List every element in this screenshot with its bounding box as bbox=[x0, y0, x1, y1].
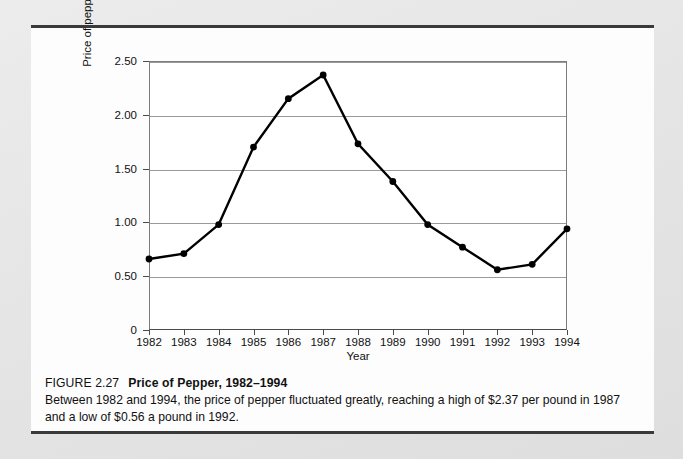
x-tick-label: 1994 bbox=[554, 337, 580, 349]
x-tick-mark bbox=[288, 330, 289, 335]
x-tick-label: 1991 bbox=[450, 337, 476, 349]
y-tick-label: 1.00 bbox=[31, 217, 137, 229]
x-tick-label: 1992 bbox=[485, 337, 511, 349]
data-point bbox=[564, 225, 571, 232]
data-point bbox=[250, 144, 257, 151]
x-tick-label: 1985 bbox=[241, 337, 267, 349]
y-tick-label: 0 bbox=[31, 325, 137, 337]
x-tick-mark bbox=[219, 330, 220, 335]
data-point bbox=[424, 221, 431, 228]
figure-number: FIGURE 2.27 bbox=[45, 376, 119, 390]
y-tick-label: 0.50 bbox=[31, 271, 137, 283]
series-markers bbox=[146, 72, 571, 274]
x-tick-mark bbox=[532, 330, 533, 335]
page-background: Price of pepper (dollars per pound) 00.5… bbox=[0, 0, 683, 459]
x-tick-label: 1982 bbox=[136, 337, 162, 349]
x-tick-mark bbox=[254, 330, 255, 335]
x-tick-label: 1984 bbox=[206, 337, 232, 349]
line-series bbox=[149, 61, 567, 330]
y-axis-title: Price of pepper (dollars per pound) bbox=[81, 0, 93, 103]
x-tick-mark bbox=[149, 330, 150, 335]
series-line bbox=[149, 75, 567, 270]
caption-body: Between 1982 and 1994, the price of pepp… bbox=[45, 392, 625, 426]
chart-region: Price of pepper (dollars per pound) 00.5… bbox=[31, 28, 654, 373]
x-tick-label: 1990 bbox=[415, 337, 441, 349]
x-tick-label: 1988 bbox=[345, 337, 371, 349]
x-tick-label: 1983 bbox=[171, 337, 197, 349]
y-axis-title-container: Price of pepper (dollars per pound) bbox=[87, 61, 107, 330]
x-axis-title: Year bbox=[149, 350, 567, 362]
data-point bbox=[529, 261, 536, 268]
x-tick-mark bbox=[358, 330, 359, 335]
x-tick-mark bbox=[184, 330, 185, 335]
caption-title: FIGURE 2.27Price of Pepper, 1982–1994 bbox=[45, 376, 640, 390]
x-tick-mark bbox=[323, 330, 324, 335]
x-tick-label: 1993 bbox=[519, 337, 545, 349]
y-tick-label: 1.50 bbox=[31, 164, 137, 176]
x-tick-mark bbox=[567, 330, 568, 335]
figure-title: Price of Pepper, 1982–1994 bbox=[128, 376, 287, 390]
y-tick-label: 2.50 bbox=[31, 56, 137, 68]
data-point bbox=[146, 256, 153, 263]
data-point bbox=[389, 178, 396, 185]
figure-card: Price of pepper (dollars per pound) 00.5… bbox=[31, 25, 654, 434]
figure-caption: FIGURE 2.27Price of Pepper, 1982–1994 Be… bbox=[31, 376, 654, 426]
data-point bbox=[215, 221, 222, 228]
data-point bbox=[320, 72, 327, 79]
x-tick-label: 1986 bbox=[276, 337, 302, 349]
x-tick-mark bbox=[428, 330, 429, 335]
data-point bbox=[180, 250, 187, 257]
data-point bbox=[494, 266, 501, 273]
data-point bbox=[459, 244, 466, 251]
x-tick-mark bbox=[393, 330, 394, 335]
x-tick-mark bbox=[463, 330, 464, 335]
y-tick-label: 2.00 bbox=[31, 110, 137, 122]
data-point bbox=[355, 140, 362, 147]
data-point bbox=[285, 95, 292, 102]
x-tick-label: 1989 bbox=[380, 337, 406, 349]
x-tick-mark bbox=[497, 330, 498, 335]
x-tick-label: 1987 bbox=[310, 337, 336, 349]
